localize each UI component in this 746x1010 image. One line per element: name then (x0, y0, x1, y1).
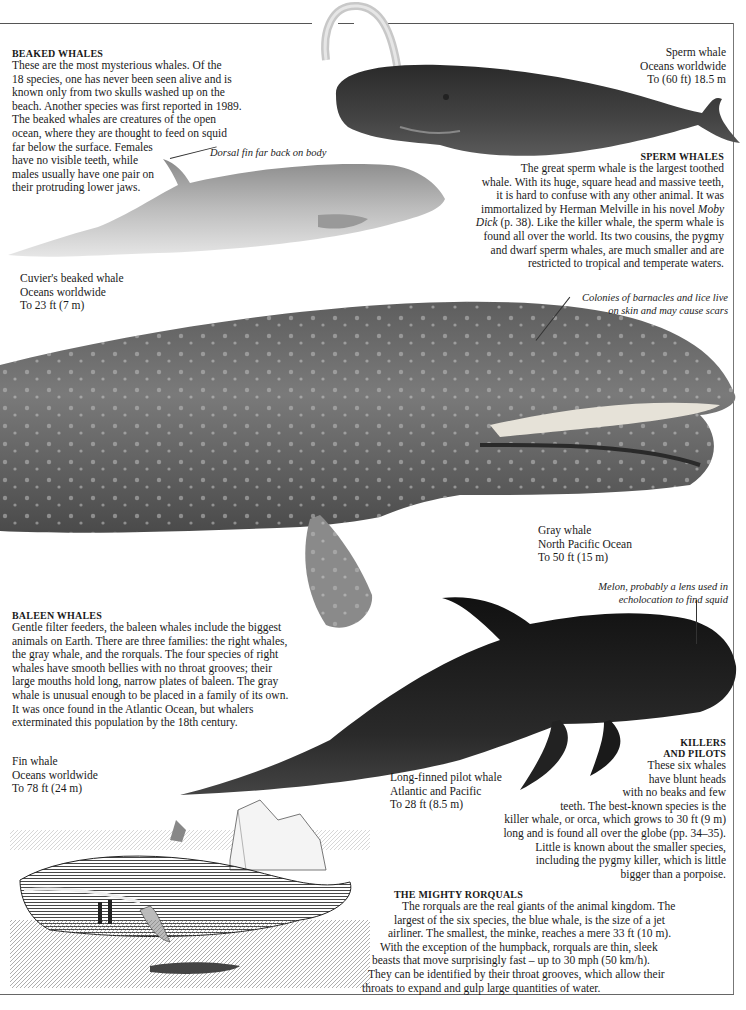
baleen-line: animals on Earth. There are three famili… (12, 635, 288, 649)
dorsal-fin-annotation: Dorsal fin far back on body (210, 146, 326, 159)
beaked-line: 18 species, one has never been seen aliv… (12, 73, 242, 87)
sperm-line: restricted to tropical and temperate wat… (404, 257, 724, 271)
caption-species: Fin whale (12, 755, 98, 769)
sperm-line: The great sperm whale is the largest too… (404, 162, 724, 176)
beaked-line: far below the surface. Females (12, 141, 242, 155)
barnacles-annotation: Colonies of barnacles and lice live on s… (582, 291, 728, 317)
caption-species: Sperm whale (640, 46, 726, 60)
rorquals-line: With the exception of the humpback, rorq… (380, 941, 675, 955)
beaked-line: have no visible teeth, while (12, 154, 242, 168)
baleen-line: large mouths hold long, narrow plates of… (12, 675, 288, 689)
rorquals-line: beasts that move surprisingly fast – up … (372, 954, 675, 968)
caption-size: To (60 ft) 18.5 m (640, 73, 726, 87)
cuviers-beaked-whale-caption: Cuvier's beaked whale Oceans worldwide T… (20, 272, 124, 313)
book-title-moby: Moby (698, 203, 724, 215)
caption-range: Oceans worldwide (12, 769, 98, 783)
sperm-line: whale. With its huge, square head and ma… (404, 176, 724, 190)
top-rule-right (388, 23, 733, 24)
rorquals-heading: THE MIGHTY RORQUALS (394, 889, 675, 900)
rorquals-line: The rorquals are the real giants of the … (402, 900, 675, 914)
sperm-line: found all over the world. Its two cousin… (404, 230, 724, 244)
beaked-line: known only from two skulls washed up on … (12, 86, 242, 100)
caption-range: Oceans worldwide (20, 286, 124, 300)
sperm-line: immortalized by Herman Melville in his n… (404, 203, 724, 217)
killers-heading-line2: AND PILOTS (466, 748, 726, 759)
rorquals-body: The rorquals are the real giants of the … (366, 900, 675, 995)
killers-line: have blunt heads (466, 773, 726, 787)
caption-size: To 23 ft (7 m) (20, 299, 124, 313)
sperm-whales-section: SPERM WHALES The great sperm whale is th… (404, 151, 724, 271)
baleen-line: whales have smooth bellies with no throa… (12, 662, 288, 676)
pilot-whale-caption: Long-finned pilot whale Atlantic and Pac… (390, 771, 502, 812)
fin-whale-caption: Fin whale Oceans worldwide To 78 ft (24 … (12, 755, 98, 796)
baleen-line: whale is unusual enough to be placed in … (12, 689, 288, 703)
rorquals-line: throats to expand and gulp large quantit… (362, 982, 675, 996)
killers-line: bigger than a porpoise. (466, 868, 726, 882)
book-title-dick: Dick (476, 216, 498, 228)
caption-size: To 78 ft (24 m) (12, 782, 98, 796)
caption-range: Oceans worldwide (640, 60, 726, 74)
annotation-line: Colonies of barnacles and lice live (582, 291, 728, 304)
killers-line: killer whale, or orca, which grows to 30… (466, 813, 726, 827)
killers-and-pilots-body: These six whales have blunt heads with n… (466, 759, 726, 881)
baleen-line: the gray whale, and the rorquals. The fo… (12, 648, 288, 662)
caption-range: North Pacific Ocean (538, 538, 632, 552)
beaked-whales-section: BEAKED WHALES These are the most mysteri… (12, 48, 242, 195)
caption-species: Gray whale (538, 524, 632, 538)
melon-leader-line (696, 600, 697, 644)
baleen-line: exterminated this population by the 18th… (12, 716, 288, 730)
annotation-line: echolocation to find squid (598, 593, 728, 606)
rorquals-line: airliner. The smallest, the minke, reach… (388, 927, 675, 941)
annotation-line: on skin and may cause scars (582, 304, 728, 317)
fin-whale-engraving-illustration (10, 790, 370, 990)
rorquals-line: They can be identified by their throat g… (368, 968, 675, 982)
top-rule-left (0, 23, 312, 24)
killers-line: Little is known about the smaller specie… (466, 841, 726, 855)
killers-line: These six whales (466, 759, 726, 773)
baleen-whales-heading: BALEEN WHALES (12, 610, 288, 621)
beaked-whales-heading: BEAKED WHALES (12, 48, 242, 59)
caption-size: To 50 ft (15 m) (538, 551, 632, 565)
beaked-line: ocean, where they are thought to feed on… (12, 127, 242, 141)
caption-species: Long-finned pilot whale (390, 771, 502, 785)
sperm-line: Dick (p. 38). Like the killer whale, the… (404, 216, 724, 230)
caption-size: To 28 ft (8.5 m) (390, 798, 502, 812)
beaked-line: The beaked whales are creatures of the o… (12, 113, 242, 127)
beaked-line: These are the most mysterious whales. Of… (12, 59, 242, 73)
killers-line: teeth. The best-known species is the (466, 800, 726, 814)
beaked-line: beach. Another species was first reporte… (12, 100, 242, 114)
killers-heading-line1: KILLERS (466, 737, 726, 748)
caption-range: Atlantic and Pacific (390, 785, 502, 799)
sperm-whales-heading: SPERM WHALES (404, 151, 724, 162)
beaked-whales-body: These are the most mysterious whales. Of… (12, 59, 242, 195)
sperm-line: it is hard to confuse with any other ani… (404, 189, 724, 203)
gray-whale-caption: Gray whale North Pacific Ocean To 50 ft … (538, 524, 632, 565)
sperm-whale-caption: Sperm whale Oceans worldwide To (60 ft) … (640, 46, 726, 87)
caption-species: Cuvier's beaked whale (20, 272, 124, 286)
baleen-line: Gentle filter feeders, the baleen whales… (12, 621, 288, 635)
killers-line: including the pygmy killer, which is lit… (466, 854, 726, 868)
rorquals-line: largest of the six species, the blue wha… (394, 914, 675, 928)
killers-and-pilots-section: KILLERS AND PILOTS These six whales have… (466, 737, 726, 881)
killers-line: long and is found all over the globe (pp… (466, 827, 726, 841)
beaked-line: their protruding lower jaws. (12, 181, 242, 195)
killers-line: with no beaks and few (466, 786, 726, 800)
sperm-whales-body: The great sperm whale is the largest too… (404, 162, 724, 271)
baleen-whales-body: Gentle filter feeders, the baleen whales… (12, 621, 288, 730)
baleen-whales-section: BALEEN WHALES Gentle filter feeders, the… (12, 610, 288, 730)
melon-annotation: Melon, probably a lens used in echolocat… (598, 580, 728, 606)
baleen-line: It was once found in the Atlantic Ocean,… (12, 703, 288, 717)
beaked-line: males usually have one pair on (12, 168, 242, 182)
sperm-line-text: immortalized by Herman Melville in his n… (481, 203, 695, 215)
sperm-line: and dwarf sperm whales, are much smaller… (404, 244, 724, 258)
annotation-line: Melon, probably a lens used in (598, 580, 728, 593)
sperm-line-text: (p. 38). Like the killer whale, the sper… (498, 216, 724, 228)
rorquals-section: THE MIGHTY RORQUALS The rorquals are the… (366, 889, 675, 995)
